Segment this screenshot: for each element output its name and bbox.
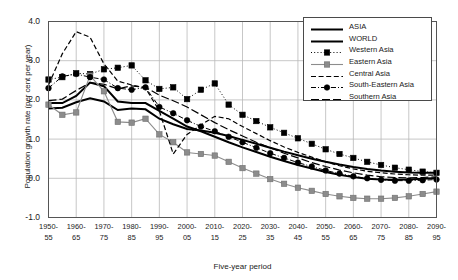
data-point-marker	[281, 155, 287, 161]
legend-key-icon	[309, 91, 345, 102]
legend-label: Central Asia	[349, 69, 390, 78]
legend-item-south-eastern-asia[interactable]: South-Eastern Asia	[304, 79, 431, 91]
legend-item-western-asia[interactable]: Western Asia	[304, 44, 431, 56]
x-axis-tick-label-top: 2090-	[420, 222, 454, 233]
data-point-marker	[240, 165, 245, 170]
data-point-marker	[254, 171, 259, 176]
data-point-marker	[115, 65, 120, 70]
legend-key-icon	[309, 44, 345, 55]
data-point-marker	[60, 112, 65, 117]
data-point-marker	[101, 89, 106, 94]
data-point-marker	[392, 165, 397, 170]
data-point-marker	[212, 153, 217, 158]
data-point-marker	[406, 194, 411, 199]
legend-key-icon	[309, 68, 345, 79]
data-point-marker	[143, 78, 148, 83]
legend-label: Southern Asia	[349, 92, 396, 101]
data-point-marker	[281, 130, 286, 135]
data-point-marker	[226, 159, 231, 164]
legend-label: ASIA	[349, 22, 366, 31]
chart-legend: ASIAWORLDWestern AsiaEastern AsiaCentral…	[303, 17, 432, 101]
data-point-marker	[115, 119, 120, 124]
data-point-marker	[295, 160, 301, 166]
data-point-marker	[420, 177, 426, 183]
data-point-marker	[171, 140, 176, 145]
data-point-marker	[254, 118, 259, 123]
legend-key-icon	[309, 79, 345, 90]
data-point-marker	[60, 74, 66, 80]
data-point-marker	[351, 174, 357, 180]
data-point-marker	[351, 195, 356, 200]
legend-label: Eastern Asia	[349, 57, 392, 66]
legend-item-central-asia[interactable]: Central Asia	[304, 67, 431, 79]
legend-label: South-Eastern Asia	[349, 80, 414, 89]
chart-figure: -1.00.01.02.03.04.0 1950-551960-651970-7…	[0, 0, 458, 280]
data-point-marker	[171, 85, 176, 90]
data-point-marker	[337, 194, 342, 199]
data-point-marker	[212, 128, 218, 134]
data-point-marker	[157, 104, 163, 110]
data-point-marker	[323, 147, 328, 152]
legend-label: Western Asia	[349, 45, 394, 54]
y-axis-title: Population growth rate (per cent per yea…	[23, 17, 32, 217]
data-point-marker	[157, 132, 162, 137]
data-point-marker	[365, 196, 370, 201]
data-point-marker	[295, 136, 300, 141]
data-point-marker	[226, 102, 231, 107]
data-point-marker	[309, 141, 314, 146]
data-point-marker	[392, 178, 398, 184]
data-point-marker	[365, 159, 370, 164]
data-point-marker	[226, 134, 232, 140]
legend-key-icon	[309, 21, 345, 32]
data-point-marker	[240, 112, 245, 117]
x-axis-tick-label-bottom: 95	[420, 233, 454, 244]
data-point-marker	[309, 188, 314, 193]
data-point-marker	[184, 150, 189, 155]
data-point-marker	[378, 196, 383, 201]
data-point-marker	[309, 164, 315, 170]
data-point-marker	[74, 110, 79, 115]
legend-key-icon	[309, 56, 345, 67]
data-point-marker	[170, 110, 176, 116]
data-point-marker	[240, 139, 246, 145]
data-point-marker	[351, 155, 356, 160]
legend-item-eastern-asia[interactable]: Eastern Asia	[304, 56, 431, 68]
data-point-marker	[212, 81, 217, 86]
data-point-marker	[129, 63, 134, 68]
data-point-marker	[337, 171, 343, 177]
data-point-marker	[268, 176, 273, 181]
data-point-marker	[392, 195, 397, 200]
data-point-marker	[323, 168, 329, 174]
x-axis-title: Five-year period	[48, 262, 437, 271]
data-point-marker	[268, 125, 273, 130]
legend-key-icon	[309, 33, 345, 44]
data-point-marker	[198, 87, 203, 92]
data-point-marker	[281, 181, 286, 186]
x-axis-tick: 2090-95	[420, 222, 454, 243]
data-point-marker	[198, 151, 203, 156]
legend-item-world[interactable]: WORLD	[304, 33, 431, 45]
data-point-marker	[184, 96, 189, 101]
data-point-marker	[129, 87, 135, 93]
data-point-marker	[420, 169, 425, 174]
data-point-marker	[143, 116, 148, 121]
data-point-marker	[87, 74, 93, 80]
data-point-marker	[378, 162, 383, 167]
data-point-marker	[184, 117, 190, 123]
data-point-marker	[295, 185, 300, 190]
data-point-marker	[129, 120, 134, 125]
data-point-marker	[254, 145, 260, 151]
data-point-marker	[101, 77, 107, 83]
data-point-marker	[406, 167, 411, 172]
data-point-marker	[157, 86, 162, 91]
data-point-marker	[323, 191, 328, 196]
data-point-marker	[267, 150, 273, 156]
legend-item-asia[interactable]: ASIA	[304, 21, 431, 33]
data-point-marker	[364, 176, 370, 182]
legend-item-southern-asia[interactable]: Southern Asia	[304, 91, 431, 103]
data-point-marker	[406, 178, 412, 184]
data-point-marker	[420, 191, 425, 196]
data-point-marker	[101, 67, 106, 72]
data-point-marker	[378, 177, 384, 183]
data-point-marker	[337, 151, 342, 156]
